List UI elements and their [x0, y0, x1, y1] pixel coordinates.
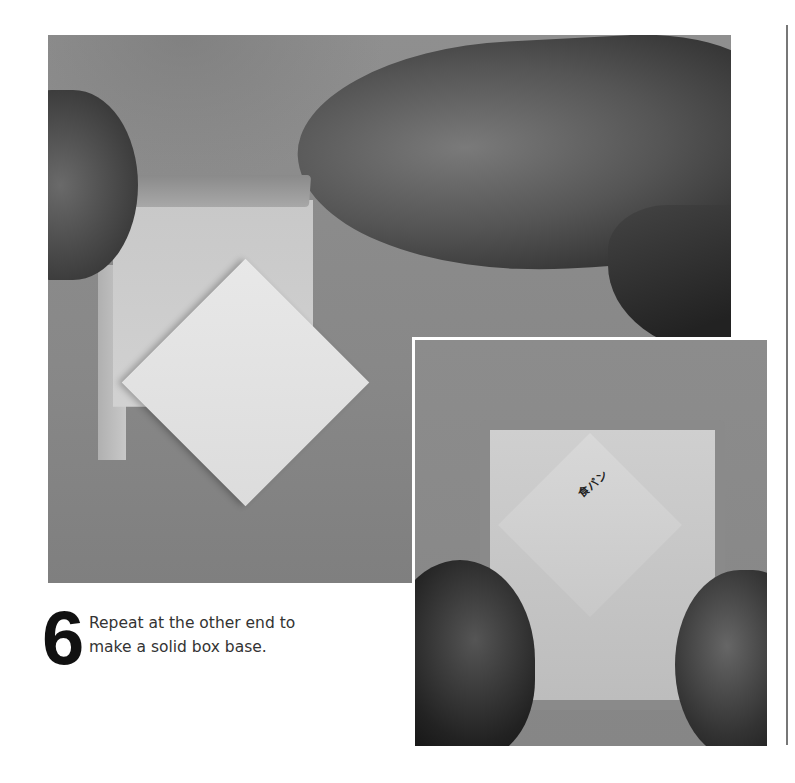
page-divider-rule [786, 25, 788, 745]
step-caption: 6 Repeat at the other end to make a soli… [42, 606, 402, 686]
step-text-line-2: make a solid box base. [89, 635, 409, 659]
step-text-line-1: Repeat at the other end to [89, 611, 409, 635]
step-number: 6 [42, 600, 84, 676]
inset-result-photo: 食パン [415, 340, 767, 746]
step-instruction: Repeat at the other end to make a solid … [89, 611, 409, 659]
paper-box-wall [109, 175, 311, 207]
